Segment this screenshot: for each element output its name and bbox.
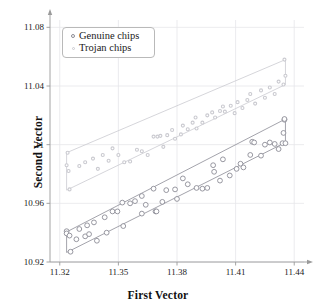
legend-label-trojan: Trojan chips xyxy=(79,42,131,54)
trojan-marker-icon xyxy=(67,47,79,50)
y-axis-label: Second Vector xyxy=(32,116,44,189)
x-tick-label: 11.38 xyxy=(167,267,187,277)
y-tick-label: 10.92 xyxy=(24,257,44,267)
genuine-marker-icon xyxy=(67,34,79,38)
data-points xyxy=(64,58,288,254)
x-tick-label: 11.41 xyxy=(226,267,246,277)
y-tick-label: 10.96 xyxy=(24,198,44,208)
legend-item-genuine: Genuine chips xyxy=(67,30,150,42)
x-tick-label: 11.35 xyxy=(108,267,128,277)
chart-legend: Genuine chips Trojan chips xyxy=(62,27,155,58)
y-tick-label: 11.04 xyxy=(24,81,44,91)
x-tick-label: 11.32 xyxy=(50,267,70,277)
legend-label-genuine: Genuine chips xyxy=(79,30,139,42)
x-axis-label: First Vector xyxy=(0,289,316,301)
legend-item-trojan: Trojan chips xyxy=(67,42,150,54)
y-tick-label: 11.08 xyxy=(24,22,44,32)
scatter-chart-figure: 11.3211.3511.3811.4111.4410.9210.961111.… xyxy=(0,0,316,304)
x-tick-label: 11.44 xyxy=(284,267,304,277)
plot-canvas xyxy=(0,0,316,304)
